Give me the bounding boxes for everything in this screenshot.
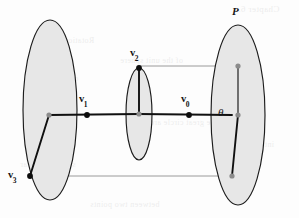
right-center-node bbox=[235, 112, 240, 117]
left-hub-node bbox=[46, 112, 51, 117]
v3-vertex-dot bbox=[27, 173, 33, 179]
geometry-diagram-canvas bbox=[0, 0, 299, 218]
segment-hub-to-middle bbox=[49, 114, 139, 115]
v2-vertex-dot bbox=[136, 65, 142, 71]
segment-middle-to-right bbox=[139, 114, 232, 115]
middle-center-node bbox=[136, 111, 141, 116]
figure-container: Chapter 6.Rotationsof the unit spherequa… bbox=[0, 0, 299, 218]
right-top-node bbox=[235, 63, 240, 68]
v1-vertex-dot bbox=[84, 112, 90, 118]
v0-vertex-dot bbox=[186, 112, 192, 118]
right-bottom-node bbox=[229, 173, 234, 178]
